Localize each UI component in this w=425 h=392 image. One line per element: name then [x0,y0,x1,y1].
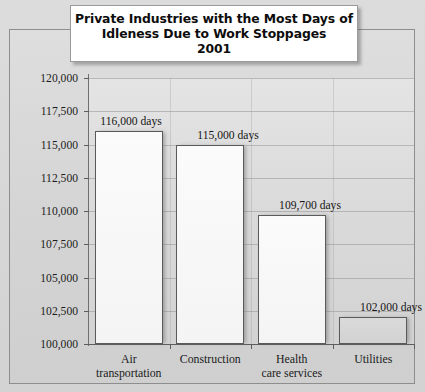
chart-title-box: Private Industries with the Most Days of… [70,5,358,62]
y-axis-tick-mark [84,244,89,245]
x-axis-category-label: Healthcare services [261,352,322,380]
chart-title-line-1: Private Industries with the Most Days of [75,11,353,26]
x-axis-category-label: Utilities [354,352,392,366]
x-axis-tick-mark [414,344,415,349]
y-axis-tick-label: 112,500 [0,171,78,184]
x-axis-category-label-line: transportation [96,366,162,380]
gridline-vertical [251,78,252,344]
x-axis-category-label-line: Utilities [354,352,392,366]
bar-value-label: 102,000 days [360,301,422,314]
y-axis-tick-label: 117,500 [0,105,78,118]
y-axis-tick-label: 115,000 [0,138,78,151]
bar-health-care-services [258,215,326,344]
y-axis-tick-mark [84,311,89,312]
x-axis-category-label-line: care services [261,366,322,380]
x-axis-tick-mark [170,344,171,349]
y-axis-tick-mark [84,211,89,212]
bar-construction [176,145,244,345]
y-axis-tick-mark [84,278,89,279]
chart-title-line-3: 2001 [197,41,231,56]
x-axis-category-label: Airtransportation [96,352,162,380]
bar-air-transportation [95,131,163,344]
y-axis-line [88,74,89,346]
y-axis-tick-label: 102,500 [0,304,78,317]
y-axis-tick-mark [84,78,89,79]
y-axis-tick-label: 120,000 [0,72,78,85]
bar-value-label: 115,000 days [197,129,258,142]
x-axis-category-label-line: Air [96,352,162,366]
y-axis-tick-mark [84,178,89,179]
bar-utilities [339,317,407,344]
y-axis-tick-label: 100,000 [0,338,78,351]
y-axis-tick-mark [84,145,89,146]
gridline-vertical [170,78,171,344]
chart-screenshot: 120,000117,500115,000112,500110,000107,5… [0,0,425,392]
x-axis-tick-mark [333,344,334,349]
bar-value-label: 116,000 days [100,115,161,128]
x-axis-tick-mark [251,344,252,349]
y-axis-tick-label: 110,000 [0,205,78,218]
y-axis-tick-mark [84,344,89,345]
bar-value-label: 109,700 days [279,199,341,212]
y-axis-tick-label: 105,000 [0,271,78,284]
x-axis-category-label: Construction [180,352,241,366]
y-axis-tick-label: 107,500 [0,238,78,251]
chart-title-line-2: Idleness Due to Work Stoppages [102,26,327,41]
x-axis-category-label-line: Health [261,352,322,366]
y-axis-tick-mark [84,111,89,112]
x-axis-category-label-line: Construction [180,352,241,366]
